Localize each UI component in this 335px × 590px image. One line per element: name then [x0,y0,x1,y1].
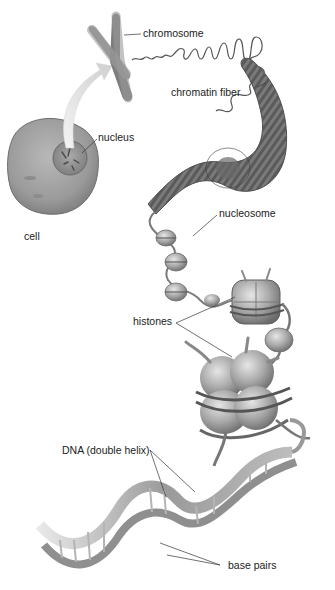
chromatin-fiber-illustration [148,58,287,214]
dna-packaging-diagram: chromosome chromatin fiber nucleus cell … [0,0,335,590]
label-chromosome: chromosome [143,28,204,39]
label-nucleosome: nucleosome [219,208,276,219]
label-histones: histones [133,316,172,327]
label-dna-double-helix: DNA (double helix) [62,445,150,456]
label-base-pairs: base pairs [228,560,276,571]
label-chromatin-fiber: chromatin fiber [171,87,240,98]
nucleosome-chain [150,212,234,307]
chromosome-illustration [89,14,133,102]
chromatin-loops [132,37,264,112]
dna-double-helix [40,420,304,564]
label-cell: cell [24,231,40,242]
label-nucleus: nucleus [98,132,134,143]
